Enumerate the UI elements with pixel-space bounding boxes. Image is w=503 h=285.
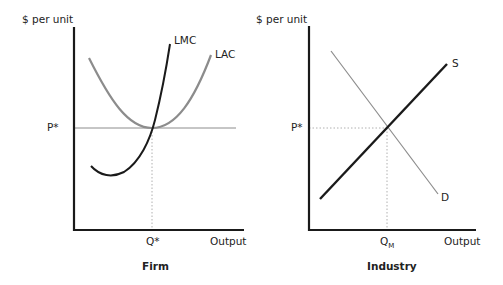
firm-panel: $ per unit P* LAC LMC Q* Output Firm: [22, 13, 246, 272]
industry-title: Industry: [367, 260, 417, 272]
lmc-label: LMC: [174, 34, 196, 46]
demand-curve: [331, 51, 438, 194]
firm-x-axis-label: Output: [210, 235, 246, 247]
industry-x-axis-label: Output: [444, 235, 480, 247]
supply-curve: [320, 64, 447, 199]
firm-y-axis-label: $ per unit: [22, 13, 73, 25]
lac-label: LAC: [215, 48, 235, 60]
lmc-curve: [91, 44, 170, 175]
firm-quantity-label: Q*: [146, 235, 160, 247]
industry-y-axis-label: $ per unit: [256, 13, 307, 25]
industry-panel: $ per unit P* D S QM Output Industry: [256, 13, 480, 272]
lac-curve: [89, 55, 211, 128]
diagram-canvas: $ per unit P* LAC LMC Q* Output Firm $ p…: [0, 0, 503, 285]
firm-title: Firm: [142, 260, 169, 272]
firm-price-label: P*: [47, 121, 59, 133]
industry-price-label: P*: [291, 121, 303, 133]
supply-label: S: [452, 57, 459, 69]
demand-label: D: [441, 191, 449, 203]
industry-quantity-label: QM: [380, 235, 394, 250]
